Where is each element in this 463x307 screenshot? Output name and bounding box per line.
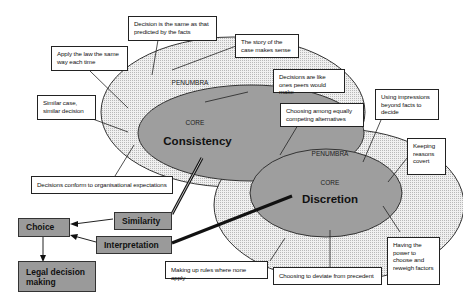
note-story-makes-sense: The story of the case makes sense <box>235 34 299 58</box>
discretion-title: Discretion <box>285 193 375 205</box>
consistency-penumbra-label: PENUMBRA <box>155 79 225 86</box>
choice-box: Choice <box>18 218 70 237</box>
discretion-core-label: CORE <box>300 179 360 186</box>
arrow-head-similarity <box>70 221 78 227</box>
note-deviate-precedent: Choosing to deviate from precedent <box>273 267 382 285</box>
note-organisational-expectations: Decisions conform to organisational expe… <box>31 176 173 194</box>
interpretation-box: Interpretation <box>96 236 172 254</box>
note-apply-law-same: Apply the law the same way each time <box>51 46 128 71</box>
arrow-head-interpretation <box>70 234 78 240</box>
legal-decision-box: Legal decision making <box>18 261 96 292</box>
note-making-up-rules: Making up rules where none apply <box>165 261 268 279</box>
note-decision-predicted: Decision is the same as that predicted b… <box>128 16 217 41</box>
note-impressions-beyond-facts: Using impressions beyond facts to decide <box>375 89 439 120</box>
note-similar-case: Similar case, similar decision <box>37 95 96 120</box>
note-competing-alternatives: Choosing among equally competing alterna… <box>280 103 364 127</box>
note-keeping-reasons-covert: Keeping reasons covert <box>407 138 446 175</box>
note-power-reweigh: Having the power to choose and reweigh f… <box>387 237 440 285</box>
discretion-penumbra-label: PENUMBRA <box>295 150 365 157</box>
consistency-title: Consistency <box>155 135 240 147</box>
consistency-core-label: CORE <box>165 119 225 126</box>
similarity-box: Similarity <box>114 212 172 230</box>
note-peers-would-make: Decisions are like ones peers would make <box>273 69 345 93</box>
